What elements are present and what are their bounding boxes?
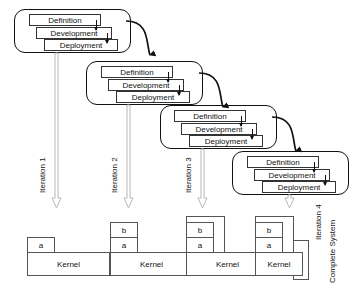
kernel-3-increment-b: b [186, 222, 214, 238]
phase-connector-arrow-2a [166, 79, 170, 83]
phase-connector-arrow-3b [250, 136, 254, 140]
deliverable-arrow-4 [285, 195, 294, 208]
iteration-label-4: Iteration 4 [314, 204, 323, 240]
deliverable-arrow-2 [124, 105, 133, 208]
phase-development-4: Development [254, 169, 330, 181]
kernel-2-increment-a-text: a [111, 238, 137, 253]
iteration-label-1: Iteration 1 [38, 157, 47, 193]
iteration-label-2: Iteration 2 [110, 157, 119, 193]
kernel-2-increment-b-text: b [111, 223, 137, 238]
kernel-2-base: Kernel [110, 252, 193, 276]
kernel-4-base: Kernel [255, 252, 303, 276]
kernel-2-increment-a: a [110, 237, 138, 253]
kernel-1-base: Kernel [27, 252, 110, 276]
phase-definition-3: Definition [174, 110, 246, 122]
kernel-2-base-text: Kernel [111, 253, 192, 276]
kernel-4-increment-a: a [255, 237, 283, 253]
diagram-canvas: Definition Development Deployment Defini… [0, 0, 353, 290]
kernel-1-increment-a: a [27, 237, 55, 253]
kernel-3-increment-b-text: b [187, 223, 213, 238]
phase-connector-arrow-4a [312, 169, 316, 173]
phase-definition-4: Definition [247, 156, 319, 168]
kernel-1-base-text: Kernel [28, 253, 109, 276]
kernel-4-increment-a-text: a [256, 238, 282, 253]
phase-connector-arrow-1b [105, 40, 109, 44]
kernel-3-increment-a-text: a [187, 238, 213, 253]
phase-connector-arrow-1a [94, 27, 98, 31]
phase-development-2: Development [108, 79, 184, 91]
phase-development-3: Development [181, 123, 257, 135]
kernel-4-increment-b-text: b [256, 223, 282, 238]
deliverable-arrow-1 [52, 53, 61, 208]
deliverable-arrow-3 [198, 149, 207, 208]
phase-definition-2: Definition [101, 66, 173, 78]
phase-connector-arrow-2b [177, 92, 181, 96]
kernel-3-increment-a: a [186, 237, 214, 253]
complete-system-label: Complete System [328, 220, 337, 283]
phase-development-1: Development [36, 27, 112, 39]
phase-definition-1: Definition [29, 14, 101, 26]
kernel-4-increment-b: b [255, 222, 283, 238]
kernel-4-base-text: Kernel [256, 253, 302, 276]
kernel-1-increment-a-text: a [28, 238, 54, 253]
iteration-label-3: Iteration 3 [184, 157, 193, 193]
kernel-2-increment-b: b [110, 222, 138, 238]
phase-connector-arrow-3a [239, 123, 243, 127]
phase-connector-arrow-4b [323, 182, 327, 186]
